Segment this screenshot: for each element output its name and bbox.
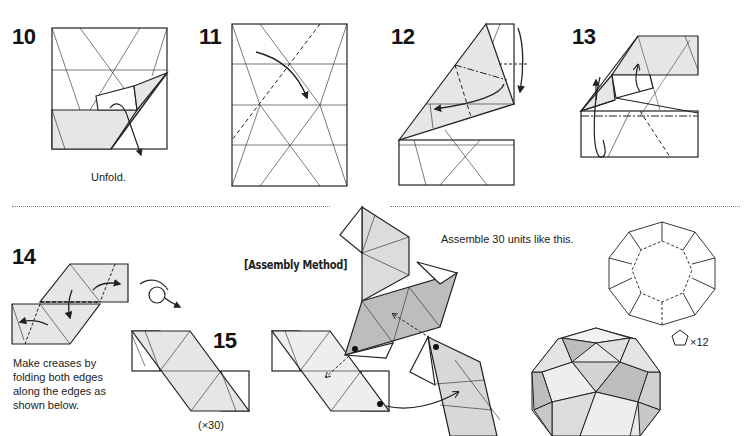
step-13-diagram xyxy=(581,36,698,157)
step-11-diagram xyxy=(232,24,347,186)
step-10-diagram xyxy=(52,28,167,155)
step-15-diagram xyxy=(132,331,249,411)
diagram-artwork xyxy=(0,0,749,436)
assembled-polyhedron xyxy=(532,328,660,436)
assembly-diagram xyxy=(272,207,500,436)
step-12-diagram xyxy=(399,24,527,185)
turn-over-icon xyxy=(140,280,180,307)
assembly-top-view xyxy=(609,222,715,325)
pentagon-icon xyxy=(672,330,688,345)
